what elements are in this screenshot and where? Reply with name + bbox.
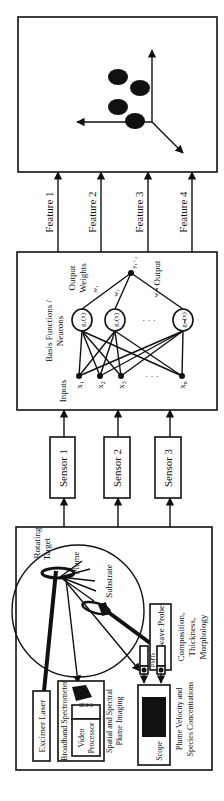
rotating-label: Rotating [32, 527, 42, 558]
output-weights-label-1: Output [67, 265, 77, 291]
substrate-label: Substrate [104, 564, 114, 598]
neuron-m-label: gₘ(x) [180, 312, 188, 328]
feature-4-label: Feature 4 [177, 191, 189, 233]
neuron-ellipsis: · · · [142, 315, 156, 325]
output-node [128, 270, 134, 276]
imaging-label-2: Plume Imaging [115, 696, 124, 745]
feature-space-frame [18, 17, 217, 172]
output-node-label: y₁₋₄ [130, 256, 138, 269]
feature-3-label: Feature 3 [133, 191, 145, 233]
sensor-1-label: Sensor 1 [57, 449, 69, 487]
video-label: Video [77, 728, 86, 747]
neurons-label: Neurons [55, 315, 65, 346]
feature-space-panel [18, 17, 217, 172]
apparatus-panel: Microwave Probe Composition, Thickness, … [12, 527, 212, 770]
target-label: Target [42, 537, 52, 560]
sensor-3-label: Sensor 3 [162, 448, 174, 487]
neural-network-panel: x1 x2 x3 xn Inputs · · · g₁(x) g₂(x) gₘ(… [17, 252, 217, 410]
velocity-label-2: Species Concentrations [186, 682, 195, 757]
input-node-3 [118, 373, 124, 379]
ccd-label: CCD [79, 701, 93, 709]
plume-label: Plume [71, 551, 81, 574]
sensor-to-network-arrows [64, 410, 170, 437]
feature-arrows: Feature 1 Feature 2 Feature 3 Feature 4 [43, 172, 192, 252]
diagram-canvas: Microwave Probe Composition, Thickness, … [0, 0, 224, 801]
data-point-2 [130, 80, 150, 96]
sensor-1: Sensor 1 [50, 437, 75, 498]
scope-label: Scope [155, 741, 164, 761]
input-node-2 [97, 373, 103, 379]
input-node-1 [76, 373, 82, 379]
output-weights-label-2: Weights [78, 263, 88, 293]
composition-label: Composition, [176, 613, 186, 662]
apparatus-to-sensor-arrows [64, 498, 170, 527]
feature-1-label: Feature 1 [43, 191, 55, 232]
neuron-2-label: g₂(x) [112, 312, 120, 327]
excimer-laser-label: Excimer Laser [37, 700, 47, 753]
output-label: Output [152, 260, 162, 286]
weight-m-label: wₘ [152, 288, 160, 297]
neuron-1-label: g₁(x) [79, 312, 87, 327]
basis-functions-label: Basis Functions / [44, 300, 54, 363]
sensor-3: Sensor 3 [155, 437, 181, 498]
processor-label: Processor [87, 722, 96, 753]
scope-screen [142, 697, 166, 737]
imaging-label-1: Spatial and Spectral [105, 688, 114, 753]
data-point-1 [108, 69, 128, 85]
thickness-label: Thickness, [187, 618, 197, 657]
inputs-label: Inputs [58, 379, 68, 402]
morphology-label: Morphology [198, 614, 208, 660]
data-point-3 [108, 99, 128, 115]
data-point-4 [125, 113, 145, 129]
input-node-n [179, 373, 185, 379]
spectrometer-label: Broadband Spectrometer [60, 681, 69, 761]
input-ellipsis: · · · [145, 371, 159, 381]
sensor-2-label: Sensor 2 [111, 449, 123, 487]
pmts-label: PMTs [150, 652, 156, 667]
weight-1-label: w₁ [91, 285, 99, 293]
weight-2-label: w₂ [112, 289, 120, 297]
sensor-2: Sensor 2 [104, 437, 130, 498]
feature-2-label: Feature 2 [86, 191, 98, 232]
velocity-label-1: Plume Velocity and [175, 688, 184, 751]
